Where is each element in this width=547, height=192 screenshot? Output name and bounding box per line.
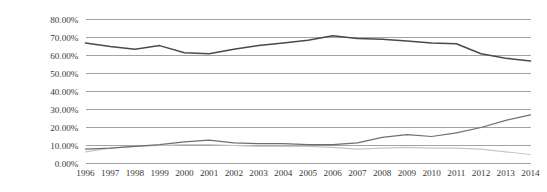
x-tick-label: 1999	[150, 168, 169, 178]
gridlines	[86, 20, 531, 164]
x-tick-label: 2005	[299, 168, 318, 178]
x-tick-label: 2001	[200, 168, 219, 178]
y-tick-label: 50.00%	[50, 69, 79, 79]
x-tick-label: 2004	[274, 168, 293, 178]
x-tick-label: 2000	[175, 168, 194, 178]
x-tick-label: 1998	[126, 168, 145, 178]
line-chart: 0.00%10.00%20.00%30.00%40.00%50.00%60.00…	[0, 0, 547, 192]
x-axis-tick-labels: 1996199719981999200020012002200320042005…	[76, 168, 540, 178]
x-tick-label: 2012	[472, 168, 491, 178]
series-line-series-2	[86, 115, 531, 149]
x-tick-label: 2007	[348, 168, 367, 178]
x-tick-label: 1997	[101, 168, 120, 178]
y-tick-label: 80.00%	[50, 15, 79, 25]
y-tick-label: 30.00%	[50, 105, 79, 115]
y-axis-tick-labels: 0.00%10.00%20.00%30.00%40.00%50.00%60.00…	[50, 15, 79, 169]
x-tick-label: 2013	[497, 168, 516, 178]
x-tick-label: 2014	[521, 168, 540, 178]
x-tick-label: 2002	[225, 168, 244, 178]
y-tick-label: 70.00%	[50, 33, 79, 43]
x-tick-label: 1996	[76, 168, 95, 178]
y-tick-label: 10.00%	[50, 141, 79, 151]
x-tick-label: 2008	[373, 168, 392, 178]
x-tick-label: 2009	[398, 168, 417, 178]
chart-canvas: 0.00%10.00%20.00%30.00%40.00%50.00%60.00…	[0, 0, 547, 192]
x-tick-label: 2003	[249, 168, 268, 178]
series-line-series-3	[86, 145, 531, 155]
series-group	[86, 36, 531, 155]
x-tick-label: 2010	[422, 168, 441, 178]
x-tick-label: 2006	[324, 168, 343, 178]
y-tick-label: 20.00%	[50, 123, 79, 133]
y-tick-label: 40.00%	[50, 87, 79, 97]
y-tick-label: 0.00%	[55, 159, 79, 169]
y-tick-label: 60.00%	[50, 51, 79, 61]
series-line-series-1	[86, 36, 531, 61]
x-tick-label: 2011	[447, 168, 465, 178]
